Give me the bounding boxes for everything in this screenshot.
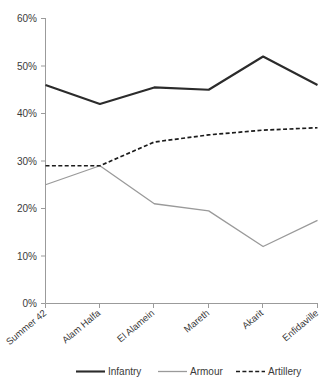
x-tick-label: Akarit [240,307,266,331]
y-tick-label: 30% [17,156,37,167]
y-tick-marks [41,19,46,304]
y-tick-label: 40% [17,108,37,119]
y-tick-labels: 60% 50% 40% 30% 20% 10% 0% [17,13,37,309]
y-tick-label: 20% [17,203,37,214]
series-line-artillery [46,128,318,166]
y-tick-label: 50% [17,61,37,72]
y-tick-label: 0% [23,298,38,309]
series-line-armour [46,166,318,247]
line-chart: 60% 50% 40% 30% 20% 10% 0% Summer 42 Ala… [0,0,328,392]
chart-legend: Infantry Armour Artillery [76,366,301,377]
y-tick-label: 10% [17,251,37,262]
legend-label-infantry: Infantry [108,366,141,377]
y-tick-label: 60% [17,13,37,24]
x-tick-label: Mareth [182,307,212,334]
series-line-infantry [46,57,318,105]
x-tick-label: Alam Halfa [60,307,103,346]
x-tick-labels: Summer 42 Alam Halfa El Alamein Mareth A… [4,307,321,347]
data-series-group [46,57,318,247]
x-tick-label: Summer 42 [4,307,49,347]
chart-canvas: 60% 50% 40% 30% 20% 10% 0% Summer 42 Ala… [0,0,328,392]
x-tick-marks [46,304,318,309]
x-tick-label: El Alamein [115,307,156,344]
legend-label-artillery: Artillery [268,366,301,377]
x-tick-label: Enfidaville [280,307,320,343]
legend-label-armour: Armour [190,366,223,377]
